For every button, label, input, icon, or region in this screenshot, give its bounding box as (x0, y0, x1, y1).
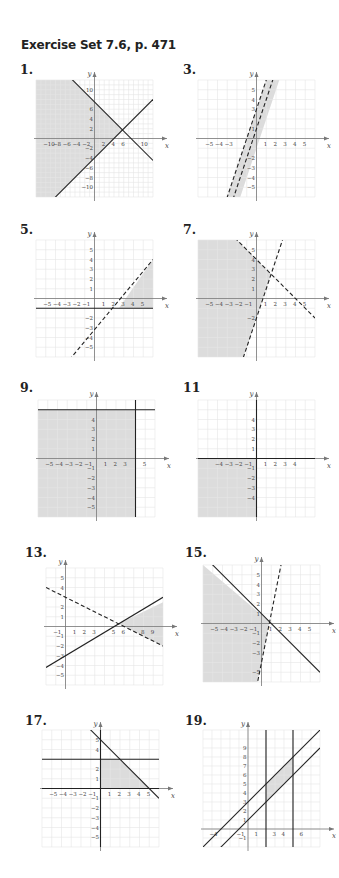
svg-text:−3: −3 (225, 461, 234, 467)
svg-text:6: 6 (121, 141, 125, 147)
svg-text:4: 4 (112, 141, 116, 147)
inequality-graph: xy−4−3−2−112344321−1−2−3−4 (190, 390, 337, 527)
svg-text:2: 2 (83, 629, 87, 635)
svg-text:−3: −3 (56, 653, 65, 659)
svg-text:1: 1 (73, 629, 77, 635)
svg-text:−3: −3 (225, 141, 234, 147)
svg-text:−1: −1 (91, 795, 99, 801)
svg-text:3: 3 (288, 626, 292, 632)
svg-text:x: x (171, 792, 175, 800)
svg-text:−2: −2 (235, 301, 243, 307)
svg-text:2: 2 (102, 141, 106, 147)
svg-text:−2: −2 (79, 791, 87, 797)
svg-text:−4: −4 (55, 461, 64, 467)
svg-text:−2: −2 (247, 315, 255, 321)
svg-text:y: y (240, 720, 246, 728)
svg-text:5: 5 (303, 141, 307, 147)
svg-text:−5: −5 (85, 344, 94, 350)
svg-text:x: x (165, 142, 169, 150)
inequality-graph: xy−5−4−3−2−11234554321−2 (190, 230, 337, 367)
svg-text:−2: −2 (235, 461, 243, 467)
svg-text:3: 3 (283, 461, 287, 467)
svg-text:−5: −5 (43, 301, 52, 307)
svg-text:3: 3 (273, 831, 277, 837)
svg-text:4: 4 (293, 301, 297, 307)
svg-text:3: 3 (127, 791, 131, 797)
svg-text:−5: −5 (49, 791, 58, 797)
svg-text:1: 1 (104, 461, 108, 467)
svg-text:y: y (93, 720, 99, 728)
svg-text:3: 3 (90, 266, 94, 272)
svg-text:x: x (332, 832, 336, 840)
svg-text:3: 3 (92, 426, 96, 432)
svg-text:−3: −3 (225, 301, 234, 307)
svg-text:−10: −10 (81, 184, 93, 190)
svg-text:−3: −3 (69, 791, 78, 797)
svg-text:x: x (332, 627, 336, 635)
svg-text:−5: −5 (91, 834, 100, 840)
svg-text:−4: −4 (220, 626, 229, 632)
svg-text:2: 2 (90, 126, 94, 132)
svg-text:10: 10 (86, 87, 93, 93)
svg-text:1: 1 (96, 776, 100, 782)
svg-text:4: 4 (61, 585, 65, 591)
svg-text:2: 2 (274, 141, 278, 147)
svg-text:x: x (167, 462, 171, 470)
svg-text:6: 6 (90, 106, 94, 112)
svg-text:−4: −4 (87, 495, 96, 501)
svg-text:2: 2 (96, 766, 100, 772)
svg-text:3: 3 (121, 301, 125, 307)
svg-text:−5: −5 (205, 301, 214, 307)
svg-text:2: 2 (118, 791, 122, 797)
svg-text:4: 4 (282, 831, 286, 837)
svg-text:5: 5 (141, 301, 145, 307)
svg-text:x: x (327, 142, 331, 150)
svg-text:6: 6 (243, 772, 247, 778)
svg-text:2: 2 (114, 461, 118, 467)
svg-text:−4: −4 (59, 791, 68, 797)
svg-text:2: 2 (274, 301, 278, 307)
svg-text:3: 3 (257, 591, 261, 597)
svg-text:−8: −8 (85, 175, 94, 181)
svg-text:5: 5 (303, 301, 307, 307)
solution-region (119, 602, 163, 646)
svg-text:−4: −4 (247, 495, 256, 501)
svg-text:1: 1 (108, 791, 112, 797)
svg-text:2: 2 (274, 461, 278, 467)
svg-text:−2: −2 (73, 301, 81, 307)
svg-text:4: 4 (90, 257, 94, 263)
svg-text:y: y (249, 390, 255, 398)
svg-text:−2: −2 (85, 145, 93, 151)
svg-text:x: x (165, 302, 169, 310)
svg-text:−2: −2 (240, 626, 248, 632)
svg-text:−3: −3 (87, 485, 96, 491)
svg-text:4: 4 (90, 116, 94, 122)
svg-text:1: 1 (264, 461, 268, 467)
svg-text:10: 10 (141, 141, 148, 147)
svg-text:y: y (89, 390, 95, 398)
svg-text:1: 1 (61, 614, 65, 620)
svg-text:−2: −2 (247, 155, 255, 161)
inequality-graph: xy−5−4−3−2−11234554321−1−2−3−5 (195, 555, 339, 692)
svg-text:4: 4 (257, 582, 261, 588)
svg-text:−3: −3 (230, 626, 239, 632)
svg-text:5: 5 (143, 461, 147, 467)
svg-text:6: 6 (122, 629, 126, 635)
svg-text:3: 3 (283, 301, 287, 307)
svg-text:−1: −1 (56, 633, 64, 639)
svg-text:−6: −6 (63, 141, 72, 147)
inequality-graph: xy−5−4−3−2−112354321−1−2−3−4−5 (30, 390, 177, 527)
svg-text:−5: −5 (247, 184, 256, 190)
svg-text:−2: −2 (75, 461, 83, 467)
svg-text:3: 3 (283, 141, 287, 147)
svg-text:7: 7 (243, 763, 247, 769)
inequality-graph: xy−5−4−3123455431−2−3−4−5 (190, 70, 337, 207)
svg-text:−4: −4 (215, 141, 224, 147)
svg-text:y: y (87, 230, 93, 238)
svg-text:5: 5 (147, 791, 151, 797)
svg-text:5: 5 (257, 572, 261, 578)
svg-text:6: 6 (300, 831, 304, 837)
svg-text:2: 2 (257, 601, 261, 607)
svg-text:4: 4 (252, 97, 256, 103)
svg-text:3: 3 (92, 629, 96, 635)
